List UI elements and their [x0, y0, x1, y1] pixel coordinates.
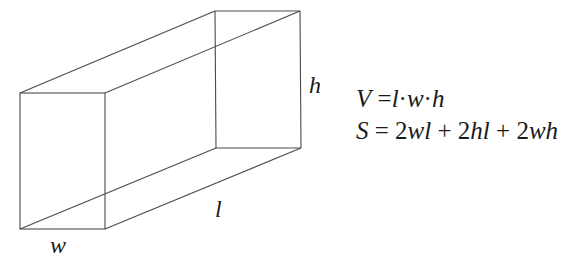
length-label: l [215, 197, 222, 221]
surface-area-formula: S = 2wl + 2hl + 2wh [356, 118, 558, 143]
width-label: w [50, 233, 66, 257]
height-label: h [309, 73, 321, 97]
volume-symbol: V [356, 85, 371, 112]
equals-sign: = [375, 117, 389, 144]
equals-sign: = [378, 85, 392, 112]
volume-formula: V =l·w·h [356, 86, 444, 111]
top-left-length-edge [20, 11, 215, 93]
bottom-right-length-edge [105, 148, 301, 229]
top-right-length-edge [105, 11, 300, 93]
bottom-left-length-edge [20, 148, 216, 229]
back-right-edge [300, 11, 301, 148]
front-face [20, 93, 105, 229]
back-left-edge [215, 11, 216, 148]
surface-area-symbol: S [356, 117, 369, 144]
